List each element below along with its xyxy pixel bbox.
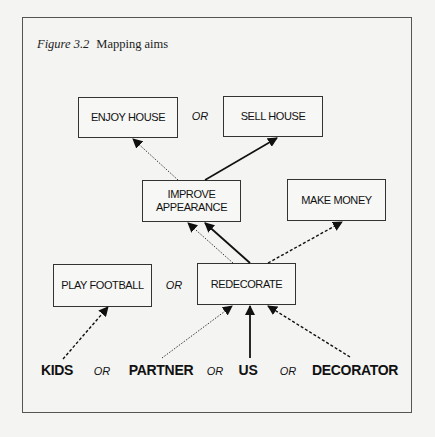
actor-partner: PARTNER (129, 362, 194, 378)
actor-decorator: DECORATOR (312, 362, 398, 378)
figure-label: Figure 3.2 (37, 37, 89, 51)
or-connector-middle: OR (166, 279, 183, 291)
or-connector-actor-2: OR (207, 365, 224, 377)
figure-title: Mapping aims (96, 37, 168, 51)
node-make-money: MAKE MONEY (287, 179, 386, 221)
node-redecorate: REDECORATE (197, 263, 296, 305)
node-improve-appearance: IMPROVE APPEARANCE (142, 180, 241, 222)
or-connector-actor-1: OR (94, 365, 111, 377)
or-connector-top: OR (192, 110, 209, 122)
node-sell-house: SELL HOUSE (223, 96, 323, 137)
node-play-football: PLAY FOOTBALL (53, 264, 152, 307)
actor-kids: KIDS (41, 362, 73, 378)
or-connector-actor-3: OR (280, 365, 297, 377)
node-enjoy-house: ENJOY HOUSE (78, 97, 178, 138)
figure-caption: Figure 3.2Mapping aims (37, 37, 168, 52)
actor-us: US (239, 362, 258, 378)
